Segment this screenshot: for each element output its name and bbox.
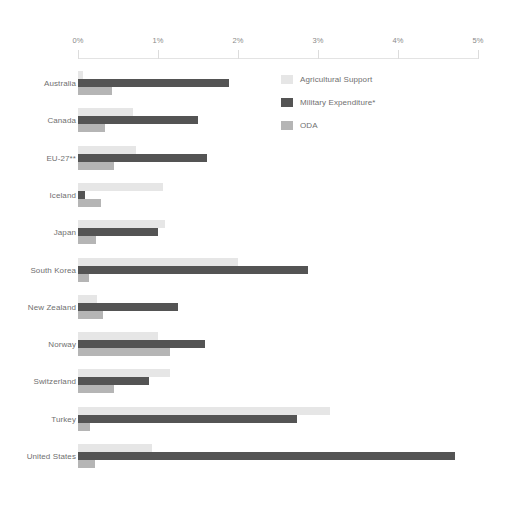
bar[interactable] <box>78 415 297 423</box>
category-label: South Korea <box>30 266 76 275</box>
bar[interactable] <box>78 444 152 452</box>
bar[interactable] <box>78 385 114 393</box>
category-label: Iceland <box>50 191 77 200</box>
bar[interactable] <box>78 228 158 236</box>
bar-group: EU-27** <box>0 145 507 175</box>
category-label: New Zealand <box>28 303 76 312</box>
bar[interactable] <box>78 71 83 79</box>
bar[interactable] <box>78 266 308 274</box>
bar[interactable] <box>78 146 136 154</box>
bar[interactable] <box>78 258 238 266</box>
bar[interactable] <box>78 369 170 377</box>
bar[interactable] <box>78 348 170 356</box>
category-label: United States <box>27 452 76 461</box>
category-label: Turkey <box>51 415 76 424</box>
bar[interactable] <box>78 87 112 95</box>
bar[interactable] <box>78 183 163 191</box>
category-label: Australia <box>44 79 76 88</box>
bar[interactable] <box>78 332 158 340</box>
bar[interactable] <box>78 295 97 303</box>
bar[interactable] <box>78 79 229 87</box>
bar[interactable] <box>78 236 96 244</box>
bar-chart: 0%1%2%3%4%5% Agricultural SupportMilitar… <box>0 0 507 524</box>
bar-group: Turkey <box>0 406 507 436</box>
bar[interactable] <box>78 108 133 116</box>
plot-area: AustraliaCanadaEU-27**IcelandJapanSouth … <box>0 0 507 524</box>
bar-group: Canada <box>0 107 507 137</box>
bar[interactable] <box>78 154 207 162</box>
bar[interactable] <box>78 274 89 282</box>
category-label: Norway <box>48 340 76 349</box>
bar[interactable] <box>78 124 105 132</box>
bar[interactable] <box>78 460 95 468</box>
bar-group: Australia <box>0 70 507 100</box>
bar-group: Switzerland <box>0 368 507 398</box>
category-label: Switzerland <box>34 377 76 386</box>
bar-group: Norway <box>0 331 507 361</box>
bar[interactable] <box>78 162 114 170</box>
bar[interactable] <box>78 377 149 385</box>
bar[interactable] <box>78 407 330 415</box>
bar[interactable] <box>78 311 103 319</box>
bar[interactable] <box>78 340 205 348</box>
bar[interactable] <box>78 303 178 311</box>
bar[interactable] <box>78 116 198 124</box>
bar-group: Iceland <box>0 182 507 212</box>
bar-group: United States <box>0 443 507 473</box>
category-label: Canada <box>47 116 76 125</box>
category-label: EU-27** <box>46 154 76 163</box>
bar[interactable] <box>78 220 165 228</box>
category-label: Japan <box>54 228 76 237</box>
bar[interactable] <box>78 423 90 431</box>
bar-group: New Zealand <box>0 294 507 324</box>
bar[interactable] <box>78 199 101 207</box>
bar-group: Japan <box>0 219 507 249</box>
bar-group: South Korea <box>0 257 507 287</box>
bar[interactable] <box>78 191 85 199</box>
bar[interactable] <box>78 452 455 460</box>
